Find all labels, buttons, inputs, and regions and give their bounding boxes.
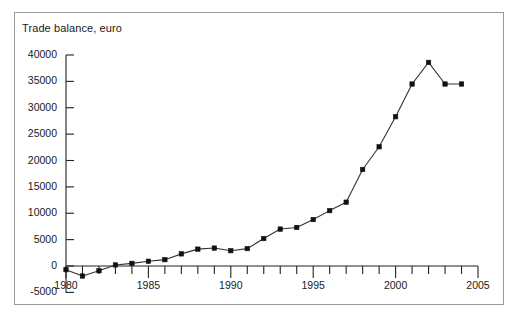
chart-figure: Trade balance, euro -5000050001000015000… bbox=[0, 0, 518, 317]
y-tick-label: 20000 bbox=[0, 154, 57, 166]
x-tick-label: 1985 bbox=[123, 279, 173, 291]
y-tick-label: 40000 bbox=[0, 48, 57, 60]
y-tick-label: 30000 bbox=[0, 101, 57, 113]
x-tick-label: 1980 bbox=[41, 279, 91, 291]
y-tick-label: 25000 bbox=[0, 127, 57, 139]
x-tick-label: 2000 bbox=[371, 279, 421, 291]
x-tick-label: 2005 bbox=[453, 279, 503, 291]
y-tick-label: 10000 bbox=[0, 206, 57, 218]
x-tick-label: 1995 bbox=[288, 279, 338, 291]
x-tick-label: 1990 bbox=[206, 279, 256, 291]
y-tick-label: 15000 bbox=[0, 180, 57, 192]
y-tick-label: 5000 bbox=[0, 233, 57, 245]
data-series bbox=[64, 60, 464, 278]
axes bbox=[66, 55, 478, 292]
y-tick-label: 35000 bbox=[0, 74, 57, 86]
y-tick-label: 0 bbox=[0, 259, 57, 271]
plot-area bbox=[0, 0, 518, 317]
